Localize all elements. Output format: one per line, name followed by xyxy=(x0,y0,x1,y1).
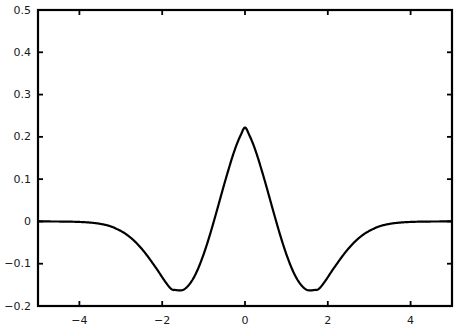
figure-container: −0.2−0.100.10.20.30.40.5 −4−2024 xyxy=(0,0,468,336)
x-tick-label: −2 xyxy=(154,314,170,327)
figure-background xyxy=(0,0,468,336)
x-tick-label: 2 xyxy=(324,314,331,327)
y-tick-label: 0.5 xyxy=(14,4,32,17)
y-tick-label: 0.1 xyxy=(14,173,32,186)
y-tick-label: −0.2 xyxy=(4,300,31,313)
chart-plot: −0.2−0.100.10.20.30.40.5 −4−2024 xyxy=(0,0,468,336)
x-tick-label: 4 xyxy=(407,314,414,327)
y-tick-label: 0.3 xyxy=(14,88,32,101)
y-tick-label: 0 xyxy=(24,215,31,228)
x-tick-label: −4 xyxy=(71,314,87,327)
y-tick-label: 0.2 xyxy=(14,130,32,143)
y-tick-label: 0.4 xyxy=(14,46,32,59)
y-tick-label: −0.1 xyxy=(4,257,31,270)
x-tick-label: 0 xyxy=(242,314,249,327)
